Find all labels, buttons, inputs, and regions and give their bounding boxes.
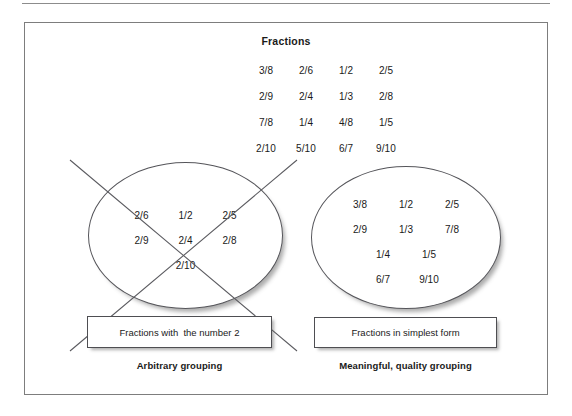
- top-horizontal-rule: [22, 3, 550, 4]
- group-row: 3/81/22/5: [312, 192, 500, 217]
- group-row: 1/41/5: [312, 242, 500, 267]
- fraction-chip: 2/4: [286, 91, 326, 102]
- fraction-chip: 2/5: [366, 65, 406, 76]
- fraction-chip: 2/4: [164, 228, 208, 253]
- group-label-arbitrary: Arbitrary grouping: [87, 360, 272, 371]
- fraction-chip: 5/10: [286, 143, 326, 154]
- caption-box-arbitrary: Fractions with the number 2: [87, 316, 272, 348]
- fraction-chip: 2/8: [366, 91, 406, 102]
- fraction-pool-row: 2/9 2/4 1/3 2/8: [246, 83, 406, 109]
- fraction-chip: 1/4: [360, 242, 406, 267]
- fraction-chip: 2/10: [246, 143, 286, 154]
- fraction-chip: 1/2: [326, 65, 366, 76]
- group-row: 2/91/37/8: [312, 217, 500, 242]
- fraction-chip: 2/6: [286, 65, 326, 76]
- group-row: 2/61/22/5: [89, 203, 282, 228]
- fraction-chip: 2/5: [429, 192, 475, 217]
- group-label-meaningful: Meaningful, quality grouping: [314, 360, 497, 371]
- fraction-chip: 6/7: [360, 267, 406, 292]
- fraction-chip: 1/5: [406, 242, 452, 267]
- fraction-chip: 3/8: [337, 192, 383, 217]
- fraction-chip: 2/5: [208, 203, 252, 228]
- group-ellipse-meaningful: 3/81/22/5 2/91/37/8 1/41/5 6/79/10: [311, 166, 501, 309]
- fraction-chip: 2/9: [337, 217, 383, 242]
- caption-text: Fractions with the number 2: [120, 327, 240, 338]
- group-contents-meaningful: 3/81/22/5 2/91/37/8 1/41/5 6/79/10: [312, 192, 500, 292]
- fraction-chip: 9/10: [366, 143, 406, 154]
- fraction-chip: 1/3: [383, 217, 429, 242]
- fraction-chip: 6/7: [326, 143, 366, 154]
- fraction-chip: 2/10: [164, 253, 208, 278]
- fraction-chip: 1/4: [286, 117, 326, 128]
- fraction-chip: 2/9: [246, 91, 286, 102]
- group-contents-arbitrary: 2/61/22/5 2/92/42/8 2/10: [89, 203, 282, 278]
- fraction-pool-row: 7/8 1/4 4/8 1/5: [246, 109, 406, 135]
- fraction-chip: 1/3: [326, 91, 366, 102]
- fraction-chip: 9/10: [406, 267, 452, 292]
- group-row: 2/92/42/8: [89, 228, 282, 253]
- fraction-pool-title: Fractions: [0, 35, 572, 47]
- caption-box-meaningful: Fractions in simplest form: [314, 317, 497, 348]
- fraction-chip: 1/2: [164, 203, 208, 228]
- fraction-chip: 4/8: [326, 117, 366, 128]
- fraction-chip: 7/8: [246, 117, 286, 128]
- group-row: 2/10: [89, 253, 282, 278]
- caption-text: Fractions in simplest form: [351, 327, 459, 338]
- fraction-chip: 1/2: [383, 192, 429, 217]
- fractions-grouping-figure: Fractions 3/8 2/6 1/2 2/5 2/9 2/4 1/3 2/…: [0, 0, 572, 416]
- fraction-chip: 2/6: [120, 203, 164, 228]
- fraction-pool-grid: 3/8 2/6 1/2 2/5 2/9 2/4 1/3 2/8 7/8 1/4 …: [246, 57, 406, 161]
- fraction-chip: 2/9: [120, 228, 164, 253]
- fraction-chip: 2/8: [208, 228, 252, 253]
- group-ellipse-arbitrary: 2/61/22/5 2/92/42/8 2/10: [88, 162, 283, 309]
- fraction-chip: 7/8: [429, 217, 475, 242]
- fraction-chip: 3/8: [246, 65, 286, 76]
- fraction-pool-row: 3/8 2/6 1/2 2/5: [246, 57, 406, 83]
- fraction-chip: 1/5: [366, 117, 406, 128]
- group-row: 6/79/10: [312, 267, 500, 292]
- fraction-pool-row: 2/10 5/10 6/7 9/10: [246, 135, 406, 161]
